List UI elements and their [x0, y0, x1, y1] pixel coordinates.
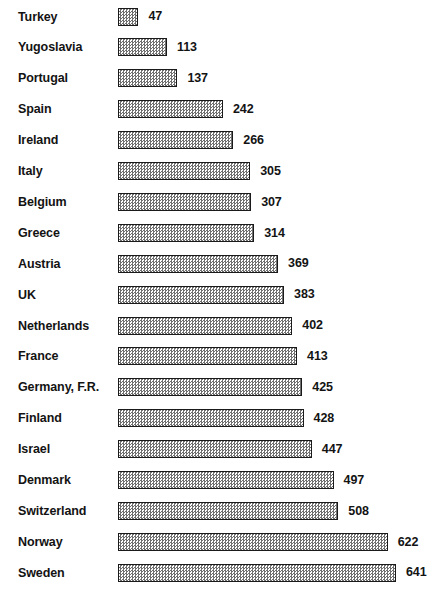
bar-row: Italy305 — [0, 156, 442, 187]
bar — [118, 564, 396, 582]
bar-row: Portugal137 — [0, 63, 442, 94]
bar-track: 47 — [118, 8, 162, 26]
bar-value-label: 369 — [288, 257, 309, 270]
bar-row: Spain242 — [0, 94, 442, 125]
bar-row: Switzerland508 — [0, 495, 442, 526]
category-label: Italy — [18, 164, 43, 178]
bar-track: 622 — [118, 533, 418, 551]
category-label: Yugoslavia — [18, 40, 82, 54]
category-label: Sweden — [18, 566, 65, 580]
bar — [118, 255, 278, 273]
category-label: Israel — [18, 442, 50, 456]
bar — [118, 471, 334, 489]
category-label: Portugal — [18, 71, 68, 85]
bar-chart: Turkey47Yugoslavia113Portugal137Spain242… — [0, 0, 442, 597]
bar-row: France413 — [0, 341, 442, 372]
category-label: Germany, F.R. — [18, 380, 99, 394]
bar — [118, 347, 297, 365]
bar — [118, 317, 292, 335]
category-label: Ireland — [18, 133, 58, 147]
bar — [118, 286, 284, 304]
bar-value-label: 305 — [260, 165, 281, 178]
bar-value-label: 428 — [314, 412, 335, 425]
bar-value-label: 137 — [187, 72, 208, 85]
category-label: France — [18, 349, 58, 363]
bar-track: 266 — [118, 131, 264, 149]
bar-track: 137 — [118, 69, 208, 87]
bar-value-label: 383 — [294, 288, 315, 301]
bar-row: Greece314 — [0, 217, 442, 248]
bar — [118, 100, 223, 118]
bar-track: 413 — [118, 347, 328, 365]
category-label: Norway — [18, 535, 63, 549]
bar-track: 508 — [118, 502, 369, 520]
bar-row: Denmark497 — [0, 465, 442, 496]
bar-track: 113 — [118, 38, 197, 56]
bar-value-label: 622 — [398, 536, 419, 549]
bar-value-label: 413 — [307, 350, 328, 363]
bar-track: 307 — [118, 193, 282, 211]
category-label: Denmark — [18, 473, 71, 487]
category-label: Netherlands — [18, 319, 89, 333]
bar-row: Belgium307 — [0, 186, 442, 217]
bar — [118, 8, 138, 26]
bar-track: 314 — [118, 224, 285, 242]
bar-value-label: 508 — [348, 505, 369, 518]
bar — [118, 533, 388, 551]
bar — [118, 69, 177, 87]
bar — [118, 162, 250, 180]
bar-value-label: 242 — [233, 103, 254, 116]
category-label: Turkey — [18, 10, 57, 24]
bar-row: Finland428 — [0, 403, 442, 434]
bar-track: 447 — [118, 440, 342, 458]
bar-value-label: 47 — [148, 10, 162, 23]
bar-row: Sweden641 — [0, 557, 442, 588]
category-label: Switzerland — [18, 504, 86, 518]
bar-value-label: 447 — [322, 443, 343, 456]
bar — [118, 378, 302, 396]
bar — [118, 440, 312, 458]
bar-track: 242 — [118, 100, 254, 118]
bar-row: Austria369 — [0, 248, 442, 279]
bar-track: 402 — [118, 317, 323, 335]
bar-row: Norway622 — [0, 526, 442, 557]
bar-value-label: 314 — [264, 227, 285, 240]
category-label: UK — [18, 288, 36, 302]
category-label: Greece — [18, 226, 60, 240]
category-label: Belgium — [18, 195, 67, 209]
bar-row: Netherlands402 — [0, 310, 442, 341]
bar-track: 641 — [118, 564, 427, 582]
bar-value-label: 402 — [302, 319, 323, 332]
bar-value-label: 266 — [243, 134, 264, 147]
bar-row: Turkey47 — [0, 1, 442, 32]
bar-row: Germany, F.R.425 — [0, 372, 442, 403]
bar-value-label: 497 — [344, 474, 365, 487]
category-label: Spain — [18, 102, 52, 116]
bar — [118, 502, 338, 520]
bar — [118, 193, 251, 211]
bar-value-label: 641 — [406, 566, 427, 579]
bar-row: Yugoslavia113 — [0, 32, 442, 63]
bar — [118, 38, 167, 56]
bar-track: 305 — [118, 162, 281, 180]
bar-row: Ireland266 — [0, 125, 442, 156]
bar — [118, 131, 233, 149]
bar-track: 428 — [118, 409, 334, 427]
bar — [118, 409, 304, 427]
bar-value-label: 425 — [312, 381, 333, 394]
bar-track: 383 — [118, 286, 315, 304]
category-label: Finland — [18, 411, 62, 425]
bar-track: 497 — [118, 471, 364, 489]
bar-value-label: 307 — [261, 196, 282, 209]
bar-track: 369 — [118, 255, 309, 273]
bar-row: UK383 — [0, 279, 442, 310]
bar-row: Israel447 — [0, 434, 442, 465]
category-label: Austria — [18, 257, 60, 271]
bar-track: 425 — [118, 378, 333, 396]
bar-value-label: 113 — [177, 41, 197, 54]
bar — [118, 224, 254, 242]
